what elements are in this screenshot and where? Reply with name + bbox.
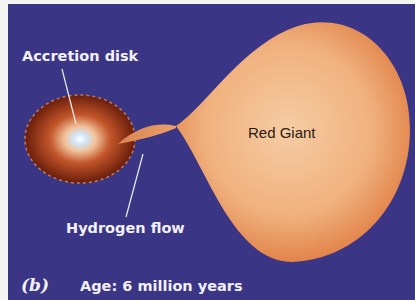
accretion-disk-label: Accretion disk	[22, 48, 138, 64]
age-caption: Age: 6 million years	[80, 278, 243, 294]
red-giant-lobe	[176, 22, 410, 262]
accretion-disk	[25, 95, 135, 183]
red-giant-label: Red Giant	[248, 124, 316, 141]
hydrogen-flow-label: Hydrogen flow	[66, 220, 185, 236]
hydrogen-leader-line	[126, 154, 143, 217]
diagram-panel: Accretion disk Hydrogen flow Red Giant (…	[8, 4, 415, 300]
panel-label: (b)	[21, 275, 49, 295]
